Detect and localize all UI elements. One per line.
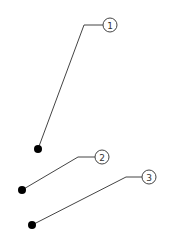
callout-3: 3 — [28, 170, 156, 229]
balloon-label-1: 1 — [107, 21, 113, 31]
anchor-dot-2 — [18, 186, 26, 194]
leader-line-2 — [22, 157, 95, 190]
callout-1: 1 — [34, 18, 117, 153]
balloon-label-2: 2 — [99, 153, 105, 163]
leader-line-3 — [32, 177, 142, 225]
leader-line-1 — [38, 25, 103, 149]
callout-2: 2 — [18, 150, 109, 194]
anchor-dot-1 — [34, 145, 42, 153]
balloon-label-3: 3 — [146, 173, 152, 183]
callout-diagram: 1 2 3 — [0, 0, 172, 243]
diagram-canvas: 1 2 3 — [0, 0, 172, 243]
anchor-dot-3 — [28, 221, 36, 229]
